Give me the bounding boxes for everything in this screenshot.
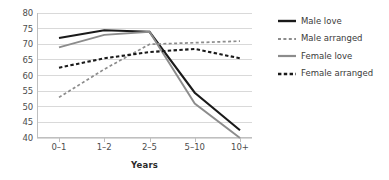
- line-chart: 807570656055504540 0–11–22–55–1010+ Year…: [0, 0, 389, 180]
- y-tick-label: 80: [11, 9, 33, 18]
- solid-line-swatch: [278, 16, 296, 26]
- series-line-male-arranged: [59, 41, 240, 97]
- x-axis-title: Years: [37, 160, 252, 170]
- chart-legend: Male loveMale arrangedFemale loveFemale …: [278, 14, 389, 84]
- y-tick-label: 55: [11, 87, 33, 96]
- dashed-line-swatch: [278, 34, 296, 44]
- legend-item-label: Male arranged: [301, 34, 363, 43]
- dashed-line-swatch: [278, 69, 296, 79]
- y-tick-label: 70: [11, 40, 33, 49]
- y-axis-labels: 807570656055504540: [8, 13, 33, 138]
- x-axis-labels: 0–11–22–55–1010+: [37, 143, 252, 157]
- y-tick-label: 60: [11, 72, 33, 81]
- x-tick-label: 0–1: [51, 143, 66, 152]
- y-tick-label: 45: [11, 118, 33, 127]
- legend-item[interactable]: Male love: [278, 14, 389, 28]
- x-tick-label: 5–10: [185, 143, 205, 152]
- plot-canvas: [37, 13, 252, 138]
- x-tick-label: 2–5: [142, 143, 157, 152]
- solid-line-swatch: [278, 51, 296, 61]
- y-tick-label: 75: [11, 25, 33, 34]
- legend-item-label: Female arranged: [301, 69, 373, 78]
- y-tick-label: 65: [11, 56, 33, 65]
- x-tick-label: 10+: [231, 143, 249, 152]
- y-tick-label: 50: [11, 103, 33, 112]
- series-line-female-arranged: [59, 49, 240, 68]
- legend-item[interactable]: Male arranged: [278, 32, 389, 46]
- x-tick-label: 1–2: [97, 143, 112, 152]
- legend-item[interactable]: Female love: [278, 49, 389, 63]
- legend-item[interactable]: Female arranged: [278, 67, 389, 81]
- legend-item-label: Male love: [301, 17, 342, 26]
- legend-item-label: Female love: [301, 52, 352, 61]
- y-tick-label: 40: [11, 134, 33, 143]
- plot-area: [37, 13, 252, 138]
